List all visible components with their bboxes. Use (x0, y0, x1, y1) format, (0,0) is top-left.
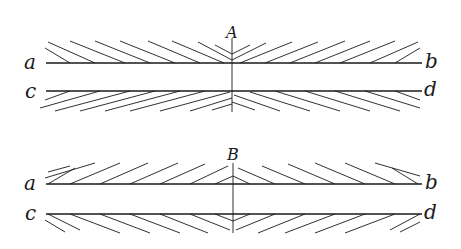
line-b-label: b (425, 49, 438, 73)
hatching-a-upper (45, 41, 420, 63)
line-a-label: a (24, 50, 36, 74)
figure-b (45, 163, 422, 233)
line-c-label: c (25, 201, 36, 225)
line-c-label: c (25, 79, 36, 103)
figure-b-label: B (226, 145, 239, 164)
line-a-label: a (24, 171, 36, 195)
hatching-c-lower (40, 91, 420, 111)
figure-a (40, 38, 422, 112)
hatching-a-upper (45, 163, 420, 184)
line-d-label: d (424, 77, 437, 101)
figure-a-label: A (224, 23, 238, 42)
line-b-label: b (425, 170, 438, 194)
hatching-c-lower (45, 214, 420, 233)
illusion-diagram: A a b c d B a b c d (0, 0, 461, 249)
line-d-label: d (424, 200, 437, 224)
